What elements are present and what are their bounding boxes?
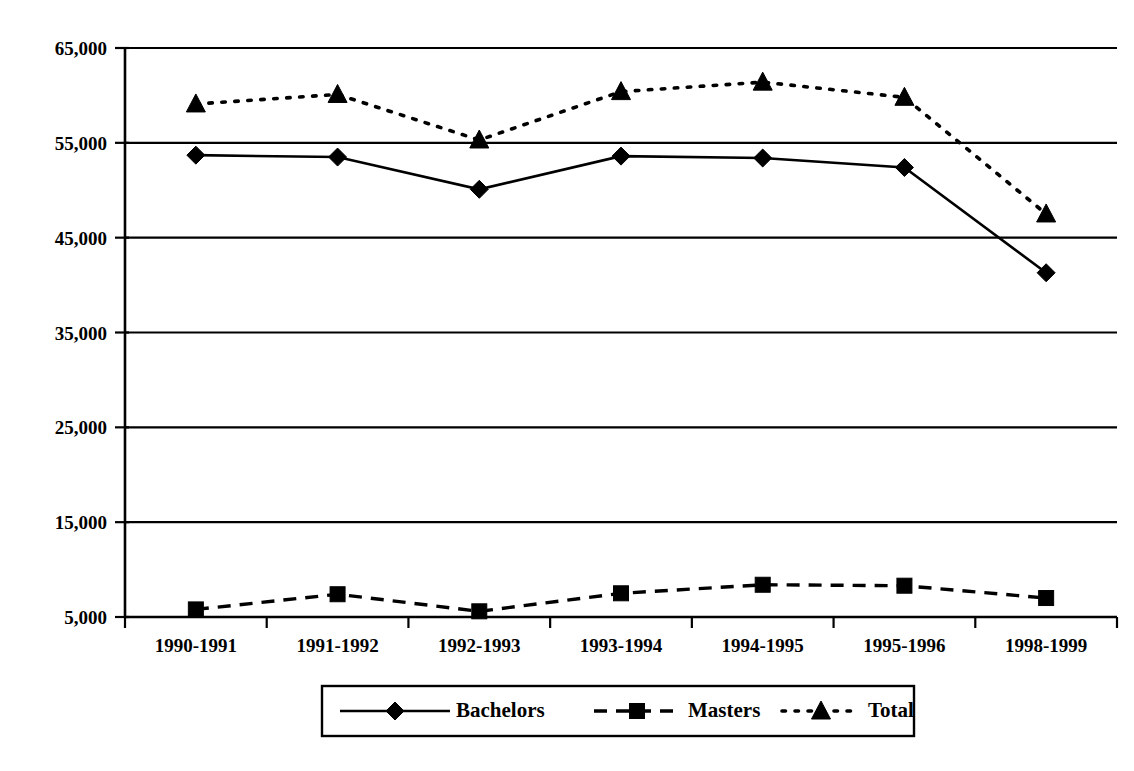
y-tick-label: 65,000 bbox=[55, 38, 107, 59]
data-point-total bbox=[612, 82, 631, 100]
data-point-masters bbox=[1039, 591, 1054, 606]
x-tick-label: 1990-1991 bbox=[155, 635, 237, 656]
y-tick-label: 15,000 bbox=[55, 512, 107, 533]
legend-label-total: Total bbox=[868, 698, 914, 722]
x-tick-label: 1995-1996 bbox=[863, 635, 945, 656]
data-point-masters bbox=[472, 604, 487, 619]
legend-label-masters: Masters bbox=[688, 698, 760, 722]
y-tick-label: 5,000 bbox=[64, 607, 107, 628]
legend-marker-masters bbox=[630, 704, 645, 719]
series-markers bbox=[186, 72, 1055, 619]
x-tick-label: 1992-1993 bbox=[438, 635, 520, 656]
y-tick-label: 45,000 bbox=[55, 228, 107, 249]
data-point-masters bbox=[755, 577, 770, 592]
x-tick-label: 1998-1999 bbox=[1005, 635, 1087, 656]
x-axis-ticks bbox=[125, 617, 1117, 628]
y-axis-tick-labels: 5,00015,00025,00035,00045,00055,00065,00… bbox=[55, 38, 107, 628]
data-point-masters bbox=[330, 587, 345, 602]
x-tick-label: 1993-1994 bbox=[580, 635, 663, 656]
data-point-total bbox=[186, 94, 205, 112]
x-tick-label: 1994-1995 bbox=[722, 635, 804, 656]
series-line-bachelors bbox=[196, 155, 1046, 273]
data-point-bachelors bbox=[187, 146, 205, 164]
data-point-bachelors bbox=[470, 180, 488, 198]
chart-canvas: 5,00015,00025,00035,00045,00055,00065,00… bbox=[0, 0, 1134, 771]
chart-page: 5,00015,00025,00035,00045,00055,00065,00… bbox=[0, 0, 1134, 771]
y-tick-label: 35,000 bbox=[55, 323, 107, 344]
y-tick-label: 25,000 bbox=[55, 417, 107, 438]
data-point-masters bbox=[897, 578, 912, 593]
data-point-masters bbox=[614, 586, 629, 601]
data-point-bachelors bbox=[612, 147, 630, 165]
x-tick-label: 1991-1992 bbox=[296, 635, 378, 656]
data-point-masters bbox=[188, 602, 203, 617]
data-point-total bbox=[470, 130, 489, 148]
legend-label-bachelors: Bachelors bbox=[456, 698, 545, 722]
y-tick-label: 55,000 bbox=[55, 133, 107, 154]
data-point-total bbox=[328, 84, 347, 102]
y-axis-ticks bbox=[115, 48, 129, 617]
gridlines bbox=[125, 48, 1117, 617]
chart-legend: BachelorsMastersTotal bbox=[322, 686, 914, 736]
data-point-bachelors bbox=[329, 148, 347, 166]
line-chart: 5,00015,00025,00035,00045,00055,00065,00… bbox=[0, 0, 1134, 771]
data-point-bachelors bbox=[754, 149, 772, 167]
x-axis-tick-labels: 1990-19911991-19921992-19931993-19941994… bbox=[155, 635, 1088, 656]
data-point-bachelors bbox=[1037, 264, 1055, 282]
data-point-bachelors bbox=[895, 158, 913, 176]
